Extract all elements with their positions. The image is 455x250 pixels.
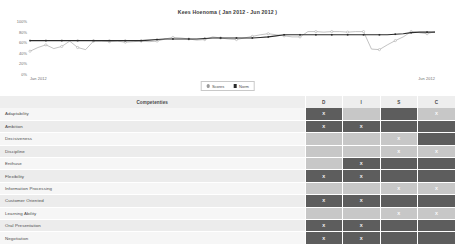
data-point — [283, 34, 285, 36]
dimension-cell-s[interactable] — [380, 195, 418, 207]
table-row[interactable]: Information ProcessingXX — [0, 182, 455, 194]
data-point — [331, 34, 333, 36]
column-header-d: D — [305, 96, 343, 108]
dimension-cell-i[interactable]: X — [343, 158, 381, 170]
dimension-cell-c[interactable]: X — [418, 145, 455, 157]
column-header-s: S — [380, 96, 418, 108]
y-axis-tick-2: 40% — [19, 50, 27, 55]
data-point — [204, 38, 206, 40]
dimension-cell-i[interactable] — [343, 108, 381, 120]
dimension-cell-i[interactable] — [343, 145, 381, 157]
dimension-cell-c[interactable] — [418, 133, 455, 145]
series-scores — [29, 31, 435, 53]
legend-label-norm: Norm — [239, 84, 249, 89]
dimension-cell-c[interactable] — [418, 120, 455, 132]
data-point — [156, 39, 158, 41]
data-point — [156, 40, 158, 42]
dimension-cell-s[interactable] — [380, 120, 418, 132]
table-row[interactable]: DisciplineXX — [0, 145, 455, 157]
table-row[interactable]: DecisivenessX — [0, 133, 455, 145]
data-point — [267, 33, 269, 35]
y-axis-tick-0: 0% — [21, 72, 27, 77]
table-row[interactable]: FlexibilityXX — [0, 170, 455, 182]
dimension-cell-i[interactable]: X — [343, 120, 381, 132]
dimension-cell-i[interactable]: X — [343, 195, 381, 207]
dimension-cell-s[interactable]: X — [380, 133, 418, 145]
data-point — [77, 40, 79, 42]
legend-swatch-norm — [233, 84, 236, 87]
chart-svg — [30, 21, 435, 74]
competency-name: Enthuse — [0, 158, 305, 170]
dimension-cell-s[interactable] — [380, 220, 418, 232]
dimension-cell-c[interactable] — [418, 220, 455, 232]
dimension-cell-i[interactable] — [343, 182, 381, 194]
column-header-competence: Competenties — [0, 96, 305, 108]
competency-table-wrap: Competenties D I S C AdaptabilityXXAmbit… — [0, 96, 455, 250]
dimension-cell-s[interactable]: X — [380, 145, 418, 157]
table-row[interactable]: EnthuseX — [0, 158, 455, 170]
data-point — [45, 44, 47, 46]
data-point — [299, 36, 301, 38]
dimension-cell-c[interactable] — [418, 170, 455, 182]
data-point — [362, 31, 364, 33]
dimension-cell-s[interactable]: X — [380, 207, 418, 219]
dimension-cell-s[interactable]: X — [380, 182, 418, 194]
chart-title: Kees Hoenoma ( Jan 2012 - Jun 2012 ) — [0, 9, 455, 15]
dimension-cell-d[interactable]: X — [305, 195, 343, 207]
dimension-cell-c[interactable]: X — [418, 207, 455, 219]
data-point — [251, 35, 253, 37]
legend-item-norm[interactable]: Norm — [233, 84, 248, 89]
dimension-cell-c[interactable] — [418, 232, 455, 244]
dimension-cell-i[interactable]: X — [343, 220, 381, 232]
data-point — [235, 38, 237, 40]
data-point — [29, 50, 31, 52]
y-axis-tick-5: 100% — [17, 19, 27, 24]
dimension-cell-d[interactable]: X — [305, 232, 343, 244]
data-point — [426, 33, 428, 35]
dimension-cell-s[interactable] — [380, 232, 418, 244]
data-point — [410, 32, 412, 34]
competency-name: Oral Presentation — [0, 220, 305, 232]
dimension-cell-c[interactable]: X — [418, 182, 455, 194]
table-header-row: Competenties D I S C — [0, 96, 455, 108]
legend-item-scores[interactable]: Scores — [206, 84, 224, 89]
dimension-cell-d[interactable] — [305, 182, 343, 194]
data-point — [61, 40, 63, 42]
dimension-cell-c[interactable]: X — [418, 108, 455, 120]
dimension-cell-c[interactable] — [418, 158, 455, 170]
dimension-cell-s[interactable] — [380, 108, 418, 120]
table-row[interactable]: AdaptabilityXX — [0, 108, 455, 120]
dimension-cell-s[interactable] — [380, 158, 418, 170]
dimension-cell-i[interactable] — [343, 133, 381, 145]
y-axis-tick-3: 60% — [19, 40, 27, 45]
dimension-cell-s[interactable] — [380, 170, 418, 182]
table-row[interactable]: Oral PresentationXX — [0, 220, 455, 232]
competency-name: Negotiation — [0, 232, 305, 244]
competency-table: Competenties D I S C AdaptabilityXXAmbit… — [0, 96, 455, 245]
dimension-cell-c[interactable] — [418, 195, 455, 207]
dimension-cell-i[interactable] — [343, 207, 381, 219]
data-point — [426, 31, 428, 33]
data-point — [379, 34, 381, 36]
table-row[interactable]: NegotiationXX — [0, 232, 455, 244]
table-row[interactable]: Customer OrientedXX — [0, 195, 455, 207]
dimension-cell-i[interactable]: X — [343, 170, 381, 182]
table-row[interactable]: AmbitionXX — [0, 120, 455, 132]
dimension-cell-d[interactable]: X — [305, 120, 343, 132]
legend-label-scores: Scores — [212, 84, 224, 89]
dimension-cell-d[interactable] — [305, 133, 343, 145]
dimension-cell-d[interactable] — [305, 207, 343, 219]
data-point — [45, 40, 47, 42]
table-header: Competenties D I S C — [0, 96, 455, 108]
dimension-cell-d[interactable]: X — [305, 220, 343, 232]
dimension-cell-d[interactable] — [305, 158, 343, 170]
table-row[interactable]: Learning AbilityXX — [0, 207, 455, 219]
dimension-cell-d[interactable]: X — [305, 108, 343, 120]
data-point — [347, 34, 349, 36]
dimension-cell-i[interactable]: X — [343, 232, 381, 244]
dimension-cell-d[interactable]: X — [305, 170, 343, 182]
dimension-cell-d[interactable] — [305, 145, 343, 157]
data-point — [315, 34, 317, 36]
chart-panel: Kees Hoenoma ( Jan 2012 - Jun 2012 ) 0%2… — [0, 0, 455, 96]
data-point — [363, 34, 365, 36]
